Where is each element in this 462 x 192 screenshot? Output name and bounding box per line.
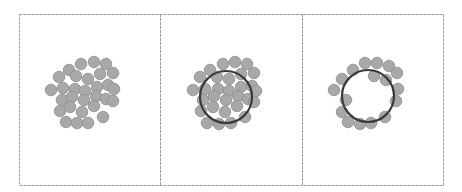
diagram-canvas <box>0 0 462 192</box>
particle <box>107 95 119 107</box>
panel-1-cluster <box>45 56 120 129</box>
particle <box>371 57 383 69</box>
particle <box>328 84 340 96</box>
particle <box>71 117 83 129</box>
particle <box>108 83 120 95</box>
particle <box>248 67 260 79</box>
particle <box>82 117 94 129</box>
particle <box>187 84 199 96</box>
particle <box>64 101 76 113</box>
particle <box>229 56 241 68</box>
particle <box>88 100 100 112</box>
particle <box>231 100 243 112</box>
particle <box>45 84 57 96</box>
particle <box>219 106 231 118</box>
particle <box>207 101 219 113</box>
particle <box>88 56 100 68</box>
particle <box>75 58 87 70</box>
particle <box>223 73 235 85</box>
particle <box>217 58 229 70</box>
panel-3-ring-shell <box>328 57 404 130</box>
particle <box>97 111 109 123</box>
particle <box>342 116 354 128</box>
particle <box>82 73 94 85</box>
particle <box>57 82 69 94</box>
particle <box>391 67 403 79</box>
particle <box>66 91 78 103</box>
particle <box>359 57 371 69</box>
panel-2-cluster-with-ring <box>187 56 262 130</box>
particle <box>70 70 82 82</box>
particle <box>107 67 119 79</box>
particle <box>208 90 220 102</box>
particle <box>76 106 88 118</box>
particle <box>194 71 206 83</box>
particle <box>60 116 72 128</box>
three-panel-particle-diagram <box>0 0 462 192</box>
particle <box>78 94 90 106</box>
particle <box>94 68 106 80</box>
particle <box>220 94 232 106</box>
particle <box>53 71 65 83</box>
